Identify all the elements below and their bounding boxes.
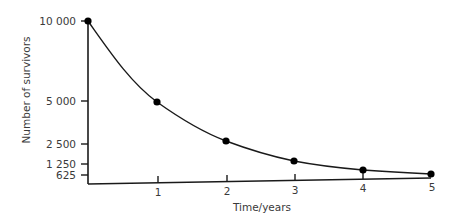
data-point-year-4 (359, 166, 366, 173)
y-tick-label-625: 625 (56, 169, 76, 181)
x-tick-label-2: 2 (224, 185, 231, 197)
x-axis-title: Time/years (232, 201, 291, 213)
x-tick-label-3: 3 (292, 184, 299, 196)
y-tick-label-10000: 10 000 (39, 15, 76, 27)
data-point-year-1 (153, 98, 160, 105)
y-tick-label-2500: 2 500 (46, 138, 76, 150)
data-point-year-0 (84, 17, 91, 24)
x-tick-label-4: 4 (360, 182, 367, 194)
data-point-year-3 (290, 157, 297, 164)
data-point-year-5 (427, 170, 434, 177)
y-tick-label-5000: 5 000 (46, 95, 76, 107)
x-tick-label-5: 5 (429, 181, 436, 193)
survivor-chart: 10 000 5 000 2 500 1 250 625 1 2 3 4 5 T… (0, 0, 455, 217)
y-axis-title: Number of survivors (20, 37, 32, 144)
data-point-year-2 (222, 137, 229, 144)
x-axis (88, 178, 431, 184)
survivor-curve (88, 21, 431, 174)
x-tick-label-1: 1 (155, 186, 162, 198)
data-points (84, 17, 434, 177)
y-ticks (81, 21, 88, 175)
